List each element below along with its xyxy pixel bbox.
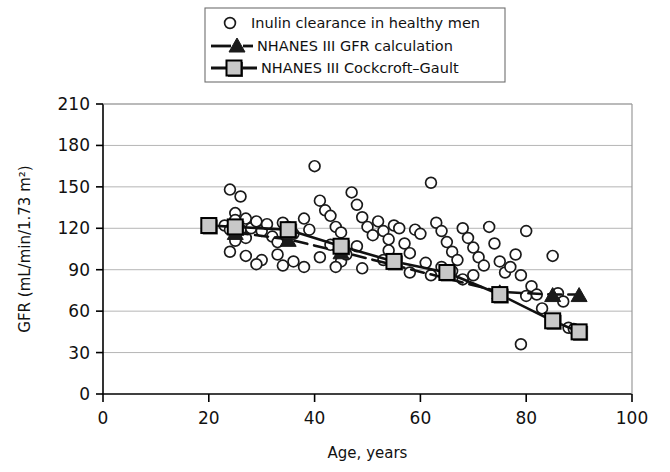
y-tick-label-180: 180: [58, 135, 90, 155]
legend-marker-open-circle: [225, 18, 236, 29]
data-point-cg-1: [228, 219, 243, 234]
legend-marker-square: [227, 61, 242, 76]
data-point-cg-7: [545, 313, 560, 328]
data-point-inulin-54: [426, 177, 437, 188]
x-tick-label-60: 60: [410, 408, 432, 428]
data-point-cg-2: [281, 222, 296, 237]
y-tick-label-60: 60: [68, 301, 90, 321]
data-point-cg-3: [334, 239, 349, 254]
data-point-inulin-81: [516, 339, 527, 350]
y-tick-label-120: 120: [58, 218, 90, 238]
data-point-inulin-39: [367, 230, 378, 241]
data-point-inulin-80: [537, 303, 548, 314]
data-point-inulin-90: [299, 262, 310, 273]
y-tick-label-0: 0: [79, 384, 90, 404]
x-tick-label-80: 80: [515, 408, 537, 428]
y-tick-label-90: 90: [68, 260, 90, 280]
y-axis: 0306090120150180210: [58, 94, 103, 404]
x-tick-label-100: 100: [616, 408, 648, 428]
data-point-inulin-52: [415, 228, 426, 239]
data-point-cg-6: [492, 287, 507, 302]
plot-frame: [103, 104, 632, 394]
y-tick-label-210: 210: [58, 94, 90, 114]
data-point-inulin-66: [478, 260, 489, 271]
data-point-inulin-12: [225, 246, 236, 257]
data-point-inulin-73: [505, 262, 516, 273]
data-point-inulin-69: [484, 222, 495, 233]
legend-label-gfr: NHANES III GFR calculation: [257, 38, 453, 54]
data-point-inulin-46: [394, 223, 405, 234]
data-point-inulin-29: [325, 210, 336, 221]
data-point-inulin-44: [383, 234, 394, 245]
data-point-inulin-89: [330, 262, 341, 273]
data-point-inulin-82: [547, 251, 558, 262]
data-point-inulin-75: [516, 270, 527, 281]
data-point-cg-8: [572, 324, 587, 339]
data-point-inulin-56: [436, 226, 447, 237]
data-point-inulin-70: [489, 238, 500, 249]
gfr-vs-age-scatter-chart: 0306090120150180210020406080100Age, year…: [0, 0, 670, 472]
data-point-inulin-91: [251, 259, 262, 270]
data-point-inulin-23: [288, 256, 299, 267]
legend-label-cg: NHANES III Cockcroft–Gault: [261, 60, 459, 76]
data-point-cg-5: [439, 265, 454, 280]
data-point-cg-4: [386, 254, 401, 269]
data-point-inulin-31: [336, 227, 347, 238]
data-point-inulin-1: [235, 191, 246, 202]
data-point-inulin-24: [299, 213, 310, 224]
data-point-inulin-26: [309, 161, 320, 172]
legend: Inulin clearance in healthy menNHANES II…: [205, 8, 505, 82]
x-axis-title: Age, years: [328, 444, 408, 462]
data-point-inulin-13: [240, 251, 251, 262]
data-point-inulin-59: [452, 255, 463, 266]
data-point-inulin-92: [277, 260, 288, 271]
data-point-inulin-71: [494, 256, 505, 267]
data-point-inulin-74: [510, 249, 521, 260]
data-point-inulin-21: [272, 249, 283, 260]
chart-container: 0306090120150180210020406080100Age, year…: [0, 0, 670, 472]
data-point-inulin-76: [521, 226, 532, 237]
x-axis: 020406080100: [98, 394, 649, 428]
legend-label-inulin: Inulin clearance in healthy men: [251, 15, 480, 31]
y-tick-label-150: 150: [58, 177, 90, 197]
data-point-inulin-93: [357, 263, 368, 274]
data-point-inulin-36: [352, 199, 363, 210]
data-point-cg-0: [201, 218, 216, 233]
x-tick-label-20: 20: [198, 408, 220, 428]
data-point-inulin-50: [404, 248, 415, 259]
data-point-inulin-25: [304, 224, 315, 235]
data-point-inulin-33: [314, 252, 325, 263]
x-tick-label-0: 0: [98, 408, 109, 428]
data-point-inulin-35: [346, 187, 357, 198]
y-tick-label-30: 30: [68, 343, 90, 363]
data-point-inulin-67: [468, 270, 479, 281]
data-point-inulin-0: [225, 184, 236, 195]
y-axis-title: GFR (mL/min/1.73 m²): [16, 165, 34, 332]
data-point-inulin-87: [404, 267, 415, 278]
x-tick-label-40: 40: [304, 408, 326, 428]
